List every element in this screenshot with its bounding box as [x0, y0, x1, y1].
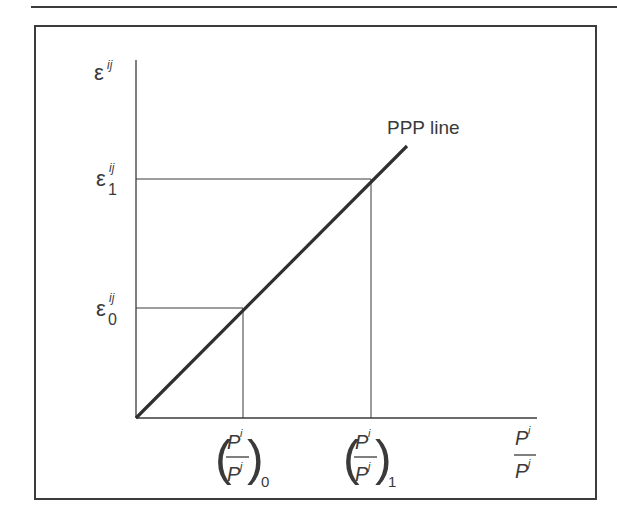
- svg-text:P: P: [355, 431, 369, 453]
- svg-text:ε: ε: [96, 296, 106, 321]
- svg-text:ε: ε: [94, 60, 104, 85]
- figure-frame: [35, 26, 596, 499]
- svg-text:ij: ij: [107, 58, 113, 72]
- svg-text:i: i: [368, 427, 371, 439]
- y-tick-eps0: ε ij 0: [96, 291, 117, 328]
- svg-text:ε: ε: [96, 166, 106, 191]
- ppp-line-label: PPP line: [387, 117, 460, 138]
- svg-text:P: P: [227, 431, 241, 453]
- svg-text:ij: ij: [109, 291, 115, 305]
- svg-text:ij: ij: [109, 161, 115, 175]
- svg-text:P: P: [227, 463, 241, 485]
- svg-text:0: 0: [108, 311, 117, 328]
- y-tick-eps1: ε ij 1: [96, 161, 117, 198]
- svg-text:1: 1: [388, 473, 396, 490]
- svg-text:P: P: [355, 463, 369, 485]
- svg-text:i: i: [240, 427, 243, 439]
- svg-text:1: 1: [108, 181, 117, 198]
- svg-text:P: P: [515, 460, 529, 482]
- svg-text:i: i: [528, 424, 531, 436]
- y-axis-label: ε ij: [94, 58, 113, 85]
- ppp-diagram: PPP line ε ij ε ij 1 ε ij 0 ( P i P j ) …: [0, 0, 617, 524]
- svg-text:P: P: [515, 427, 529, 449]
- x-tick-ratio0: ( P i P j ) 0: [215, 427, 269, 490]
- x-tick-ratio1: ( P i P j ) 1: [343, 427, 396, 490]
- svg-text:0: 0: [261, 473, 269, 490]
- ppp-line: [136, 146, 407, 418]
- x-axis-label: P i P j: [514, 424, 536, 482]
